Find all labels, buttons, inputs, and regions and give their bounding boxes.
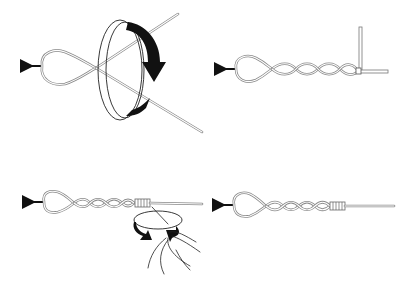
knot-diagram bbox=[0, 0, 416, 285]
hook-arrowhead-icon bbox=[212, 198, 234, 212]
panel-step-2 bbox=[214, 27, 388, 82]
hook-arrowhead-icon bbox=[214, 62, 236, 76]
hook-arrowhead-icon bbox=[22, 195, 44, 209]
rotate-left-arrow-icon bbox=[133, 222, 152, 240]
wrap-collar bbox=[135, 199, 150, 207]
rotation-arrow-icon bbox=[126, 22, 166, 82]
hand-icon bbox=[148, 232, 200, 274]
panel-step-3 bbox=[22, 191, 202, 274]
panel-step-4 bbox=[212, 193, 394, 217]
hook-arrowhead-icon bbox=[20, 59, 42, 73]
panel-step-1 bbox=[20, 14, 202, 132]
wrap-collar bbox=[330, 202, 345, 210]
